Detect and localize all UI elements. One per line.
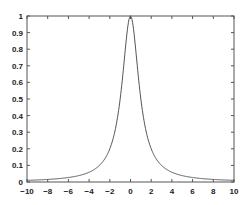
y-tick-label: 1	[19, 12, 24, 21]
y-tick-label: 0.4	[12, 112, 24, 121]
x-tick-label: 0	[128, 187, 133, 196]
data-line	[27, 16, 234, 180]
x-tick-label: 4	[170, 187, 175, 196]
y-tick-label: 0.1	[12, 161, 24, 170]
y-tick-label: 0.2	[12, 145, 24, 154]
x-tick-label: 2	[149, 187, 154, 196]
y-tick-label: 0.6	[12, 78, 24, 87]
y-axis: 00.10.20.30.40.50.60.70.80.91	[12, 12, 234, 187]
line-chart: −10−8−6−4−20246810 00.10.20.30.40.50.60.…	[0, 0, 251, 205]
x-tick-label: −4	[85, 187, 95, 196]
x-tick-label: −8	[43, 187, 53, 196]
x-tick-label: 6	[190, 187, 195, 196]
y-tick-label: 0	[19, 178, 24, 187]
x-tick-label: −2	[105, 187, 115, 196]
plot-area	[27, 16, 234, 182]
y-tick-label: 0.7	[12, 62, 24, 71]
y-tick-label: 0.8	[12, 45, 24, 54]
x-tick-label: 10	[230, 187, 239, 196]
y-tick-label: 0.9	[12, 29, 24, 38]
x-tick-label: 8	[211, 187, 216, 196]
y-tick-label: 0.3	[12, 128, 24, 137]
y-tick-label: 0.5	[12, 95, 24, 104]
plot-frame	[27, 16, 234, 182]
x-tick-label: −6	[64, 187, 74, 196]
x-tick-label: −10	[20, 187, 34, 196]
x-axis: −10−8−6−4−20246810	[20, 16, 239, 196]
